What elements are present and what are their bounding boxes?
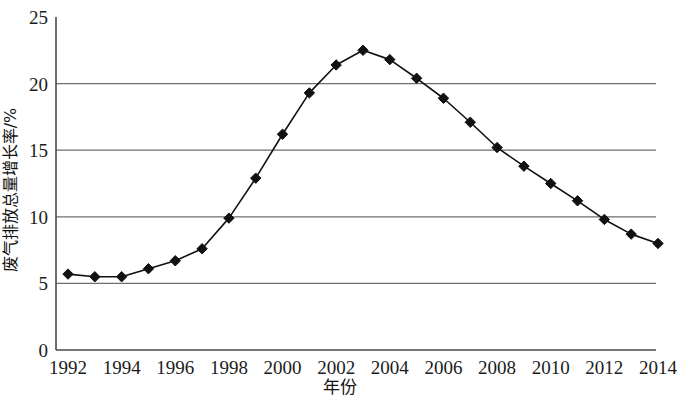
x-tick-label-1996: 1996 [156, 357, 194, 378]
x-tick-label-2000: 2000 [264, 357, 302, 378]
y-tick-label-20: 20 [29, 74, 48, 95]
x-tick-label-2002: 2002 [317, 357, 355, 378]
y-tick-label-5: 5 [39, 273, 49, 294]
x-tick-label-1992: 1992 [49, 357, 87, 378]
x-tick-label-1994: 1994 [103, 357, 142, 378]
y-tick-label-0: 0 [39, 340, 49, 361]
x-tick-label-2008: 2008 [478, 357, 516, 378]
y-axis-title: 废气排放总量增长率/% [1, 108, 20, 273]
x-axis-title: 年份 [323, 377, 357, 397]
x-tick-label-2006: 2006 [424, 357, 462, 378]
chart-figure: 0510152025 19921994199619982000200220042… [0, 0, 680, 397]
x-tick-label-1998: 1998 [210, 357, 248, 378]
y-tick-label-25: 25 [29, 7, 48, 28]
x-tick-label-2010: 2010 [532, 357, 570, 378]
y-tick-label-15: 15 [29, 140, 48, 161]
x-tick-label-2014: 2014 [639, 357, 678, 378]
x-tick-label-2012: 2012 [585, 357, 623, 378]
y-tick-label-10: 10 [29, 207, 48, 228]
line-chart-canvas: 0510152025 19921994199619982000200220042… [0, 0, 680, 397]
x-tick-label-2004: 2004 [371, 357, 410, 378]
